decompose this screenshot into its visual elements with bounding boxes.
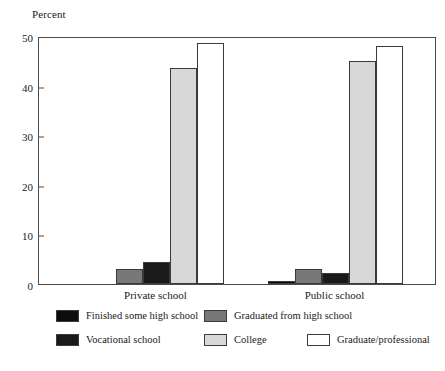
legend-item: Vocational school xyxy=(56,334,161,346)
legend-label: Finished some high school xyxy=(86,311,198,322)
plot-area: 01020304050 xyxy=(38,37,436,285)
legend-label: Vocational school xyxy=(86,335,161,346)
legend-label: Graduated from high school xyxy=(234,311,352,322)
x-axis-label: Private school xyxy=(124,289,187,301)
legend-swatch xyxy=(204,310,227,322)
bar xyxy=(268,281,295,284)
legend-item: College xyxy=(204,334,267,346)
y-axis-title: Percent xyxy=(32,8,66,20)
legend-swatch xyxy=(56,310,79,322)
legend-swatch xyxy=(307,334,330,346)
y-tick-label: 20 xyxy=(22,181,33,193)
y-tick-label: 30 xyxy=(22,131,33,143)
bar xyxy=(295,269,322,284)
bar xyxy=(170,68,197,284)
legend-item: Graduated from high school xyxy=(204,310,352,322)
y-tick-label: 10 xyxy=(22,230,33,242)
legend-label: Graduate/professional xyxy=(337,335,430,346)
y-tick-label: 0 xyxy=(28,280,34,292)
y-tick-label: 50 xyxy=(22,32,33,44)
chart-legend: Finished some high schoolGraduated from … xyxy=(56,310,428,356)
bar xyxy=(143,262,170,284)
legend-swatch xyxy=(56,334,79,346)
legend-swatch xyxy=(204,334,227,346)
legend-item: Graduate/professional xyxy=(307,334,430,346)
bar xyxy=(197,43,224,284)
legend-label: College xyxy=(234,335,267,346)
y-tick-label: 40 xyxy=(22,82,33,94)
bar-chart-figure: Percent 01020304050 Private schoolPublic… xyxy=(0,0,445,371)
x-axis-label: Public school xyxy=(305,289,365,301)
bar xyxy=(116,269,143,284)
bar xyxy=(349,61,376,284)
legend-item: Finished some high school xyxy=(56,310,198,322)
bar xyxy=(322,273,349,284)
bars-layer xyxy=(39,38,435,284)
bar xyxy=(376,46,403,284)
